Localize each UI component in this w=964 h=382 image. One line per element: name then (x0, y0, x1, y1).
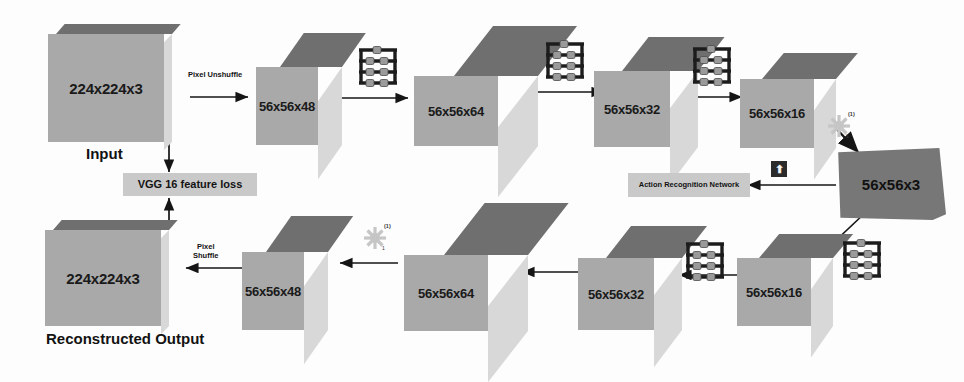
decoder-block-3[interactable]: 56x56x48 (242, 216, 328, 330)
cube-front-face: 56x56x48 (256, 67, 318, 145)
abacus-layer-icon-5 (683, 238, 727, 282)
encoder-block-0-label: 224x224x3 (69, 80, 142, 97)
svg-text:(1): (1) (384, 223, 391, 229)
encoder-block-4-label: 56x56x16 (749, 106, 805, 121)
vgg16-feature-loss-text: VGG 16 feature loss (138, 179, 243, 191)
cube-side-face (161, 230, 169, 334)
abacus-layer-icon-2 (543, 38, 587, 82)
action-recognition-network-text: Action Recognition Network (639, 181, 739, 189)
decoder-block-0[interactable]: 56x56x16 (737, 234, 833, 326)
action-recognition-network-label[interactable]: Action Recognition Network (628, 173, 750, 197)
abacus-layer-icon-1 (356, 44, 400, 88)
cube-side-face (164, 34, 172, 150)
cube-front-face: 224x224x3 (45, 230, 161, 326)
encoder-block-1[interactable]: 56x56x48 (256, 33, 342, 145)
decoder-block-4-label: 224x224x3 (66, 270, 139, 287)
pixel-unshuffle-label: Pixel Unshuffle (188, 70, 242, 79)
cube-top-face (53, 220, 178, 230)
vgg16-feature-loss-label[interactable]: VGG 16 feature loss (123, 173, 257, 196)
encoder-block-4[interactable]: 56x56x16 (740, 53, 836, 148)
cube-front-face: 56x56x64 (404, 255, 488, 331)
cube-front-face: 56x56x16 (737, 258, 811, 326)
decoder-block-1-label: 56x56x32 (588, 287, 644, 302)
bottleneck-label: 56x56x3 (862, 176, 920, 193)
cube-side-face (488, 255, 528, 382)
cube-front-face: 56x56x32 (578, 258, 654, 330)
decoder-block-3-label: 56x56x48 (245, 284, 301, 299)
svg-text:1: 1 (846, 133, 849, 139)
reconstructed-output-caption: Reconstructed Output (46, 330, 204, 347)
decoder-block-0-label: 56x56x16 (746, 285, 802, 300)
abacus-layer-icon-4 (840, 237, 884, 281)
bottleneck-block[interactable]: 56x56x3 (836, 148, 946, 220)
encoder-block-0[interactable]: 224x224x3 (48, 24, 172, 142)
decoder-block-4[interactable]: 224x224x3 (45, 220, 169, 326)
up-arrow-chip-icon: ⬆ (771, 161, 787, 177)
svg-text:1: 1 (382, 245, 385, 251)
input-caption: Input (86, 145, 123, 162)
encoder-block-2-label: 56x56x64 (428, 104, 484, 119)
decoder-block-1[interactable]: 56x56x32 (578, 226, 682, 330)
pixel-shuffle-label: Pixel Shuffle (193, 242, 218, 261)
cube-front-face: 56x56x64 (414, 76, 498, 146)
encoder-block-2[interactable]: 56x56x64 (414, 26, 538, 146)
sun-flare-activation-icon-2: (1) 1 (360, 220, 394, 254)
sun-flare-activation-icon-1: (1) 1 (824, 108, 858, 142)
encoder-block-3-label: 56x56x32 (604, 102, 660, 117)
up-arrow-glyph: ⬆ (775, 164, 784, 175)
cube-top-face (56, 24, 181, 34)
svg-text:(1): (1) (848, 111, 855, 117)
encoder-block-1-label: 56x56x48 (259, 99, 315, 114)
cube-front-face: 56x56x48 (242, 252, 304, 330)
cube-front-face: 56x56x16 (740, 79, 814, 148)
decoder-block-2-label: 56x56x64 (418, 286, 474, 301)
abacus-layer-icon-3 (690, 43, 734, 87)
decoder-block-2[interactable]: 56x56x64 (404, 203, 528, 331)
cube-front-face: 224x224x3 (48, 34, 164, 142)
cube-front-face: 56x56x32 (594, 71, 670, 147)
encoder-block-3[interactable]: 56x56x32 (594, 37, 698, 147)
